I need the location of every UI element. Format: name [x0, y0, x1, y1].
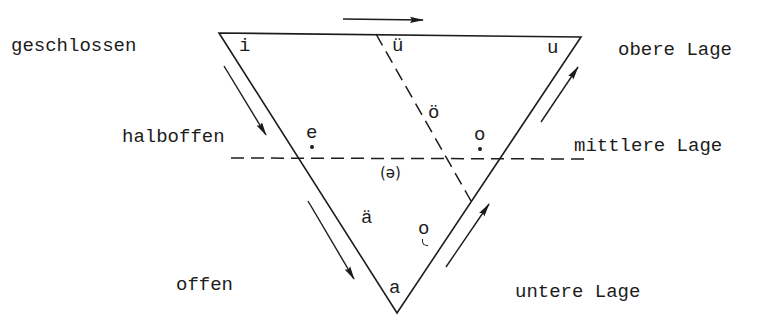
label-half-open: halboffen: [122, 128, 225, 147]
middle-position-dashed-line: [231, 158, 586, 159]
label-lower-position: untere Lage: [515, 283, 640, 302]
left-lower-arrow: [308, 201, 354, 279]
label-upper-position: obere Lage: [618, 41, 732, 60]
vowel-schwa: (ə): [380, 166, 401, 181]
vowel-a-umlaut: ä: [361, 209, 372, 228]
vowel-u-umlaut: ü: [392, 37, 403, 56]
vowel-o-umlaut: ö: [428, 104, 439, 123]
label-closed: geschlossen: [11, 37, 136, 56]
vowel-o-closed-glyph: o: [474, 126, 485, 145]
vowel-o-closed: o: [474, 126, 485, 145]
vowel-o-open-glyph: o: [418, 220, 429, 239]
vowel-o-open: o: [418, 220, 429, 239]
label-middle-position: mittlere Lage: [574, 137, 722, 156]
label-open: offen: [176, 276, 233, 295]
vowel-a: a: [389, 279, 400, 298]
vowel-i: i: [239, 37, 250, 56]
left-upper-arrow: [224, 66, 266, 135]
top-arrow: [343, 19, 423, 20]
right-lower-arrow: [446, 204, 489, 267]
right-upper-arrow: [541, 67, 578, 122]
vowel-u: u: [547, 39, 558, 58]
vowel-e-closed-glyph: e: [306, 124, 317, 143]
vowel-e-closed: e: [306, 124, 317, 143]
